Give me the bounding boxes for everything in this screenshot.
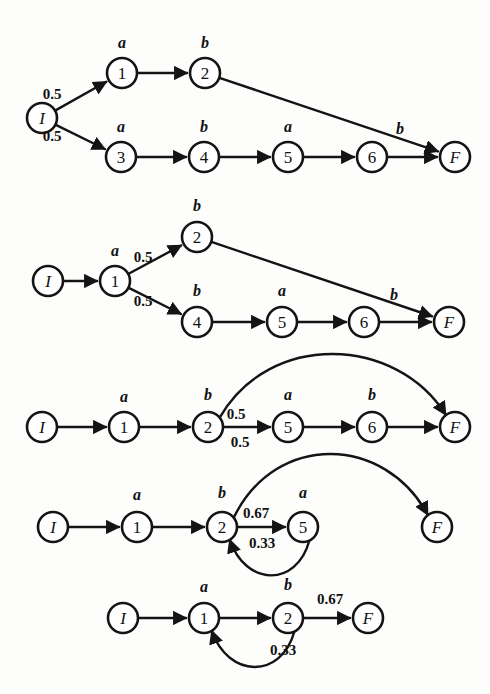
node-label: 5 <box>284 148 293 167</box>
transition-symbol-label: a <box>299 484 307 501</box>
transition-probability-label: 0.5 <box>134 293 153 309</box>
transition-probability-label: 0.5 <box>231 434 250 450</box>
state-node-2[interactable]: 2 <box>273 603 303 633</box>
state-node-6[interactable]: 6 <box>357 142 387 172</box>
node-label: 3 <box>117 148 126 167</box>
transition-symbol-label: a <box>200 578 208 595</box>
node-label: F <box>443 313 455 332</box>
node-label: 2 <box>218 518 227 537</box>
state-node-6[interactable]: 6 <box>357 412 387 442</box>
transition-symbol-label: b <box>201 34 209 51</box>
state-node-1[interactable]: 1 <box>107 58 137 88</box>
state-node-5[interactable]: 5 <box>273 412 303 442</box>
transition-probability-label: 0.67 <box>317 591 344 607</box>
diagram-5: I12Fab0.670.33 <box>108 576 383 667</box>
state-node-1[interactable]: 1 <box>100 266 130 296</box>
transition-symbol-label: a <box>133 486 141 503</box>
state-node-2[interactable]: 2 <box>193 412 223 442</box>
automata-canvas: I123456Fababab0.50.5I12456Fabbab0.50.5I1… <box>0 0 490 694</box>
state-node-1[interactable]: 1 <box>122 512 152 542</box>
node-label: 5 <box>284 418 293 437</box>
state-node-4[interactable]: 4 <box>189 142 219 172</box>
transition-symbol-label: a <box>111 242 119 259</box>
state-node-5[interactable]: 5 <box>288 512 318 542</box>
state-node-f[interactable]: F <box>422 512 452 542</box>
state-node-2[interactable]: 2 <box>207 512 237 542</box>
transition-symbol-label: b <box>218 484 226 501</box>
state-node-f[interactable]: F <box>440 142 470 172</box>
diagram-2: I12456Fabbab0.50.5 <box>33 197 464 337</box>
state-node-f[interactable]: F <box>353 603 383 633</box>
node-label: 4 <box>200 148 209 167</box>
transition-symbol-label: a <box>284 118 292 135</box>
node-label: 6 <box>368 418 377 437</box>
edge-n2-to-F <box>212 242 432 316</box>
transition-symbol-label: b <box>368 386 376 403</box>
node-label: 2 <box>193 228 202 247</box>
node-label: 2 <box>204 418 213 437</box>
transition-symbol-label: b <box>396 120 404 137</box>
node-label: F <box>449 418 461 437</box>
state-node-1[interactable]: 1 <box>189 603 219 633</box>
transition-symbol-label: a <box>278 282 286 299</box>
diagram-1: I123456Fababab0.50.5 <box>27 34 470 172</box>
state-node-i[interactable]: I <box>108 603 138 633</box>
state-node-1[interactable]: 1 <box>109 412 139 442</box>
transition-symbol-label: b <box>284 576 292 593</box>
transition-symbol-label: b <box>204 386 212 403</box>
transition-probability-label: 0.5 <box>134 249 153 265</box>
transition-symbol-label: a <box>118 34 126 51</box>
state-node-6[interactable]: 6 <box>349 307 379 337</box>
diagram-layer: I123456Fababab0.50.5I12456Fabbab0.50.5I1… <box>27 34 470 667</box>
node-label: F <box>362 609 374 628</box>
transition-probability-label: 0.67 <box>243 505 270 521</box>
state-node-f[interactable]: F <box>440 412 470 442</box>
transition-symbol-label: b <box>193 282 201 299</box>
state-node-5[interactable]: 5 <box>267 307 297 337</box>
node-label: 6 <box>360 313 369 332</box>
transition-symbol-label: b <box>193 197 201 214</box>
edge-n2-to-F <box>220 78 438 151</box>
state-node-i[interactable]: I <box>33 266 63 296</box>
transition-probability-label: 0.5 <box>43 128 62 144</box>
node-label: F <box>449 148 461 167</box>
node-label: F <box>431 518 443 537</box>
transition-symbol-label: b <box>200 118 208 135</box>
diagram-4: I125Faba0.670.33 <box>38 454 452 575</box>
edge-I-to-n1 <box>56 82 106 110</box>
state-node-i[interactable]: I <box>27 412 57 442</box>
automata-figure: I123456Fababab0.50.5I12456Fabbab0.50.5I1… <box>0 0 490 694</box>
node-label: 1 <box>111 272 120 291</box>
transition-probability-label: 0.5 <box>43 86 62 102</box>
transition-probability-label: 0.5 <box>227 406 246 422</box>
transition-probability-label: 0.33 <box>249 535 275 551</box>
node-label: 2 <box>201 64 210 83</box>
node-label: 5 <box>278 313 287 332</box>
transition-symbol-label: a <box>120 388 128 405</box>
state-node-3[interactable]: 3 <box>106 142 136 172</box>
transition-symbol-label: a <box>117 118 125 135</box>
node-label: 2 <box>284 609 293 628</box>
state-node-f[interactable]: F <box>434 307 464 337</box>
node-label: 1 <box>118 64 127 83</box>
node-label: 1 <box>120 418 129 437</box>
edge-n2-to-F <box>220 354 446 417</box>
state-node-i[interactable]: I <box>38 512 68 542</box>
node-label: 1 <box>133 518 142 537</box>
state-node-2[interactable]: 2 <box>182 222 212 252</box>
transition-probability-label: 0.33 <box>270 642 296 658</box>
node-label: 6 <box>368 148 377 167</box>
state-node-2[interactable]: 2 <box>190 58 220 88</box>
transition-symbol-label: a <box>284 386 292 403</box>
node-label: 4 <box>193 313 202 332</box>
state-node-4[interactable]: 4 <box>182 307 212 337</box>
state-node-5[interactable]: 5 <box>273 142 303 172</box>
diagram-3: I1256Fabab0.50.5 <box>27 354 470 450</box>
node-label: 1 <box>200 609 209 628</box>
node-label: 5 <box>299 518 308 537</box>
transition-symbol-label: b <box>390 286 398 303</box>
edge-I-to-n3 <box>56 125 105 149</box>
